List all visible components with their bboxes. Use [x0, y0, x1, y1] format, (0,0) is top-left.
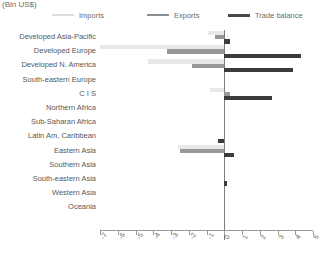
bar-trade-balance: [218, 139, 224, 143]
category-label: Western Asia: [0, 188, 96, 197]
bar-trade-balance: [224, 54, 300, 58]
x-axis-tick-label: 3: [277, 234, 286, 241]
x-axis-tick-label: -4: [152, 231, 162, 240]
bar-exports: [215, 35, 224, 39]
category-label: South-eastern Asia: [0, 174, 96, 183]
bar-exports: [167, 49, 224, 53]
x-axis-tick-label: 2: [259, 234, 268, 241]
bar-trade-balance: [224, 96, 272, 100]
category-axis-labels: Developed Asia-PacificDeveloped EuropeDe…: [0, 30, 98, 246]
bar-exports: [180, 149, 224, 153]
legend-label-exports: Exports: [174, 11, 199, 20]
category-label: Developed N. America: [0, 60, 96, 69]
legend-item-exports: Exports: [147, 8, 199, 22]
legend-swatch-exports: [147, 14, 169, 17]
plot-area: -7-6-5-4-3-2-1012345: [100, 30, 313, 246]
bar-trade-balance: [224, 181, 227, 185]
legend-item-imports: Imports: [52, 8, 104, 22]
category-label: Southern Asia: [0, 160, 96, 169]
x-axis-tick-label: -5: [135, 231, 145, 240]
category-label: Latin Am, Caribbean: [0, 131, 96, 140]
legend-swatch-imports: [52, 14, 74, 16]
x-axis-tick-label: -3: [170, 231, 180, 240]
trade-balance-bar-chart: (Bln US$) Imports Exports Trade balance …: [0, 0, 319, 280]
chart-legend: Imports Exports Trade balance: [52, 8, 317, 22]
x-axis-tick-label: -2: [188, 231, 198, 240]
x-axis-tick-label: -6: [117, 231, 127, 240]
bar-trade-balance: [224, 153, 234, 157]
legend-label-trade-balance: Trade balance: [255, 11, 303, 20]
category-label: Developed Europe: [0, 46, 96, 55]
category-label: Eastern Asia: [0, 146, 96, 155]
chart-unit-title: (Bln US$): [2, 0, 37, 9]
x-axis-tick-label: 5: [312, 234, 319, 241]
x-axis-tick-label: -7: [99, 231, 109, 240]
legend-label-imports: Imports: [79, 11, 104, 20]
category-label: Oceania: [0, 202, 96, 211]
bar-trade-balance: [224, 39, 230, 43]
x-axis-tick-label: -1: [206, 231, 216, 240]
category-label: Northern Africa: [0, 103, 96, 112]
bar-imports: [210, 88, 224, 92]
legend-swatch-trade-balance: [228, 14, 250, 17]
legend-item-trade-balance: Trade balance: [228, 8, 303, 22]
bar-exports: [192, 64, 224, 68]
category-label: Sub-Saharan Africa: [0, 117, 96, 126]
bar-trade-balance: [224, 68, 293, 72]
x-axis-tick-label: 4: [294, 234, 303, 241]
x-axis-tick-label: 1: [241, 234, 250, 241]
category-label: C I S: [0, 89, 96, 98]
category-label: South-eastern Europe: [0, 75, 96, 84]
category-label: Developed Asia-Pacific: [0, 32, 96, 41]
zero-axis-line: [224, 30, 225, 240]
